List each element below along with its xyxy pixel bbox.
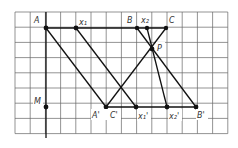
point-x1 bbox=[74, 26, 79, 31]
label-x2-prime: x₂' bbox=[168, 112, 179, 121]
point-m bbox=[44, 105, 49, 110]
point-labels: A x₁ B x₂ C P M A' C' x₁' x₂' B' bbox=[33, 16, 205, 121]
label-a-prime: A' bbox=[91, 111, 100, 120]
geometry-diagram: A x₁ B x₂ C P M A' C' x₁' x₂' B' bbox=[0, 0, 238, 148]
point-x1-prime bbox=[134, 105, 139, 110]
point-a-prime bbox=[104, 105, 109, 110]
label-p: P bbox=[157, 44, 162, 53]
label-b-prime: B' bbox=[197, 111, 205, 120]
point-p bbox=[150, 47, 155, 52]
line-b-b-prime bbox=[137, 28, 196, 107]
label-x2: x₂ bbox=[140, 16, 150, 25]
point-c bbox=[164, 26, 168, 30]
label-c-prime: C' bbox=[110, 111, 118, 120]
point-b bbox=[135, 26, 139, 30]
point-a bbox=[44, 26, 49, 31]
label-x1-prime: x₁' bbox=[137, 112, 148, 121]
point-x2 bbox=[145, 26, 149, 30]
point-b-prime bbox=[194, 105, 199, 110]
label-c: C bbox=[169, 16, 175, 25]
label-b: B bbox=[127, 16, 133, 25]
points bbox=[44, 26, 199, 110]
label-a: A bbox=[33, 16, 39, 25]
label-m: M bbox=[34, 97, 41, 106]
label-x1: x₁ bbox=[78, 18, 87, 27]
point-x2-prime bbox=[165, 105, 170, 110]
